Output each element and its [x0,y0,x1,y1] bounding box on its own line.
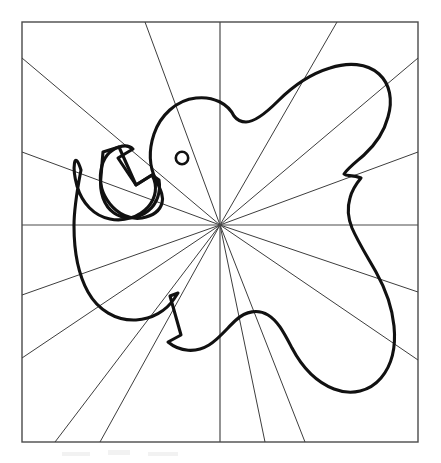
scan-smudge-2 [108,450,130,455]
drawing-canvas [0,0,441,463]
scan-smudge-1 [62,452,90,456]
scan-smudge-3 [148,452,178,456]
elephant-radial-figure [0,0,441,463]
